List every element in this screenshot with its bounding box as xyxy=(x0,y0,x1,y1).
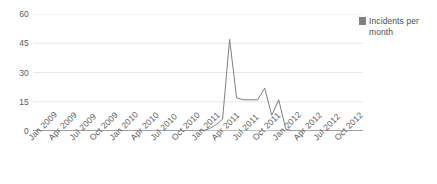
legend-swatch-icon xyxy=(359,17,366,25)
line-chart: 015304560 Jan 2009Apr 2009Jul 2009Oct 20… xyxy=(0,0,437,184)
chart-legend: Incidents per month xyxy=(359,16,431,37)
legend-label: Incidents per month xyxy=(369,16,431,37)
